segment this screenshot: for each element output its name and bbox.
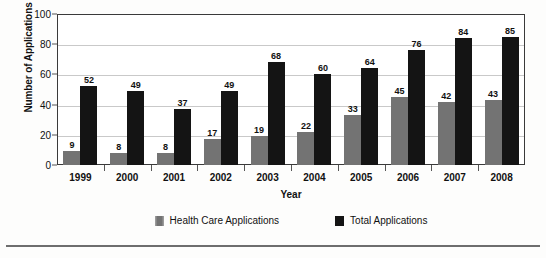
x-axis-tick-label: 2004 [303, 172, 325, 183]
bar-group: 1968 [244, 14, 291, 165]
bar-total: 68 [268, 62, 285, 165]
bar-total: 37 [174, 109, 191, 165]
bar-health-care: 22 [297, 132, 314, 165]
bar-group: 952 [57, 14, 104, 165]
x-axis-tick-mark [244, 165, 245, 171]
y-axis-tick-label: 0 [15, 160, 51, 171]
x-axis-tick-mark [431, 165, 432, 171]
bar-value-label: 49 [224, 80, 234, 90]
bar-value-label: 49 [131, 80, 141, 90]
bar-health-care: 45 [391, 97, 408, 165]
x-axis-tick-label: 2008 [490, 172, 512, 183]
bar-value-label: 22 [301, 121, 311, 131]
bar-total: 60 [314, 74, 331, 165]
bar-group: 849 [104, 14, 151, 165]
bar-value-label: 37 [177, 98, 187, 108]
x-axis-tick-label: 2005 [350, 172, 372, 183]
x-axis-tick-mark [104, 165, 105, 171]
bar-health-care: 42 [438, 102, 455, 165]
legend-swatch-total [335, 216, 344, 226]
bar-health-care: 17 [204, 139, 221, 165]
x-axis-tick-mark [197, 165, 198, 171]
bar-value-label: 64 [365, 57, 375, 67]
bar-health-care: 19 [251, 136, 268, 165]
y-axis-tick-label: 100 [15, 9, 51, 20]
x-axis-tick-mark [338, 165, 339, 171]
legend-label: Health Care Applications [170, 215, 280, 226]
x-axis-tick-label: 2006 [397, 172, 419, 183]
x-axis: 1999200020012002200320042005200620072008 [57, 165, 525, 187]
x-axis-tick-label: 2003 [256, 172, 278, 183]
bar-value-label: 8 [116, 142, 121, 152]
bar-value-label: 76 [411, 39, 421, 49]
bar-group: 4385 [478, 14, 525, 165]
bar-value-label: 68 [271, 51, 281, 61]
bar-total: 49 [221, 91, 238, 165]
x-axis-title: Year [57, 189, 525, 200]
y-axis-tick-label: 40 [15, 99, 51, 110]
chart-legend: Health Care ApplicationsTotal Applicatio… [57, 215, 525, 226]
bar-group: 4284 [431, 14, 478, 165]
bar-value-label: 42 [441, 91, 451, 101]
bar-value-label: 33 [348, 104, 358, 114]
bar-value-label: 17 [207, 128, 217, 138]
x-axis-tick-label: 1999 [69, 172, 91, 183]
bar-value-label: 84 [458, 27, 468, 37]
legend-label: Total Applications [350, 215, 427, 226]
x-axis-tick-mark [291, 165, 292, 171]
bar-health-care: 8 [110, 153, 127, 165]
bar-total: 76 [408, 50, 425, 165]
bar-value-label: 8 [163, 142, 168, 152]
y-axis-tick-label: 20 [15, 129, 51, 140]
bar-total: 85 [502, 37, 519, 165]
bar-group: 2260 [291, 14, 338, 165]
bar-value-label: 52 [84, 75, 94, 85]
bar-group: 1749 [197, 14, 244, 165]
bar-total: 52 [80, 86, 97, 165]
x-axis-tick-label: 2000 [116, 172, 138, 183]
bar-health-care: 33 [344, 115, 361, 165]
bar-value-label: 85 [505, 26, 515, 36]
legend-swatch-health [155, 216, 164, 226]
chart-figure: Number of Applications 020406080100 9528… [0, 0, 546, 258]
bar-total: 84 [455, 38, 472, 165]
bar-health-care: 43 [485, 100, 502, 165]
x-axis-tick-mark [385, 165, 386, 171]
x-axis-tick-label: 2007 [444, 172, 466, 183]
bar-total: 49 [127, 91, 144, 165]
x-axis-tick-mark [478, 165, 479, 171]
bar-series-layer: 9528498371749196822603364457642844385 [57, 14, 525, 165]
legend-item: Total Applications [335, 215, 427, 226]
bar-health-care: 9 [63, 151, 80, 165]
bar-group: 4576 [385, 14, 432, 165]
bar-value-label: 43 [488, 89, 498, 99]
x-axis-tick-label: 2002 [210, 172, 232, 183]
bar-group: 3364 [338, 14, 385, 165]
bar-value-label: 45 [394, 86, 404, 96]
bar-value-label: 60 [318, 63, 328, 73]
bar-value-label: 19 [254, 125, 264, 135]
y-axis-tick-label: 80 [15, 39, 51, 50]
bar-value-label: 9 [69, 140, 74, 150]
bar-total: 64 [361, 68, 378, 165]
y-axis-tick-label: 60 [15, 69, 51, 80]
x-axis-tick-label: 2001 [163, 172, 185, 183]
bar-group: 837 [151, 14, 198, 165]
legend-item: Health Care Applications [155, 215, 280, 226]
footer-divider [6, 245, 540, 247]
bar-health-care: 8 [157, 153, 174, 165]
x-axis-tick-mark [151, 165, 152, 171]
